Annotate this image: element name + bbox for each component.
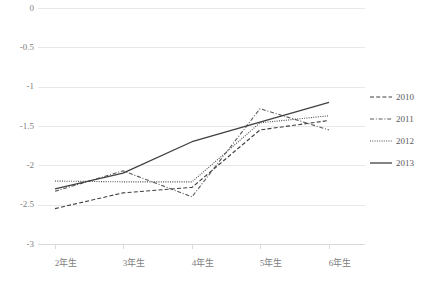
x-tick-label-grade2: 2年生 — [36, 258, 96, 269]
legend-label-2011: 2011 — [392, 114, 414, 124]
x-axis-tick — [329, 244, 330, 249]
series-line-2013 — [55, 102, 329, 189]
series-line-2011 — [55, 109, 329, 197]
legend-swatch-2011 — [370, 114, 392, 124]
y-tick-label: 0 — [4, 3, 34, 13]
legend-label-2012: 2012 — [392, 136, 414, 146]
x-axis-tick — [260, 244, 261, 249]
x-tick-label-grade3: 3年生 — [104, 258, 164, 269]
series-lines — [38, 8, 365, 244]
x-tick-label-grade5: 5年生 — [241, 258, 301, 269]
y-tick-label: -2.5 — [4, 199, 34, 209]
x-tick-label-grade6: 6年生 — [310, 258, 370, 269]
x-axis-tick — [123, 244, 124, 249]
y-tick-label: -1.5 — [4, 121, 34, 131]
legend-item-2010[interactable]: 2010 — [370, 86, 421, 108]
legend-swatch-2013 — [370, 158, 392, 168]
x-axis-tick — [192, 244, 193, 249]
x-axis-tick — [55, 244, 56, 249]
line-chart: 0 -0.5 -1 -1.5 -2 -2.5 -3 2年生 3年生 4年生 5年… — [0, 0, 421, 282]
x-axis-line — [38, 244, 365, 245]
legend-label-2013: 2013 — [392, 158, 414, 168]
legend-swatch-2012 — [370, 136, 392, 146]
legend-item-2011[interactable]: 2011 — [370, 108, 421, 130]
plot-area — [38, 8, 365, 244]
y-tick-label: -1 — [4, 81, 34, 91]
y-tick-label: -3 — [4, 239, 34, 249]
legend-swatch-2010 — [370, 92, 392, 102]
legend: 2010 2011 2012 2013 — [370, 86, 421, 174]
y-tick-label: -2 — [4, 160, 34, 170]
x-tick-label-grade4: 4年生 — [173, 258, 233, 269]
legend-item-2012[interactable]: 2012 — [370, 130, 421, 152]
legend-item-2013[interactable]: 2013 — [370, 152, 421, 174]
y-axis: 0 -0.5 -1 -1.5 -2 -2.5 -3 — [0, 0, 34, 282]
y-tick-label: -0.5 — [4, 42, 34, 52]
series-line-2010 — [55, 120, 329, 208]
legend-label-2010: 2010 — [392, 92, 414, 102]
